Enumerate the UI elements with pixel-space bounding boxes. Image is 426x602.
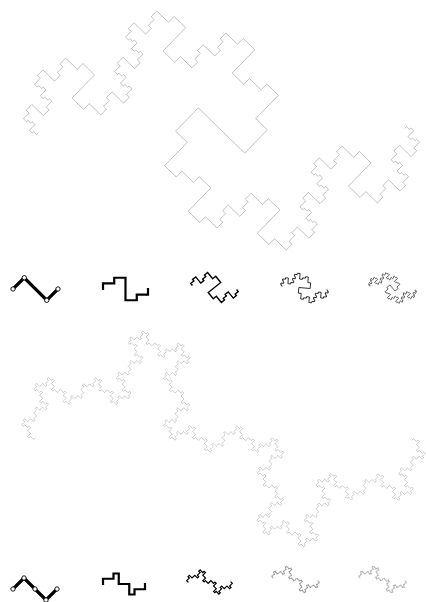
generator-node-marker — [22, 276, 26, 280]
generator-node-marker — [45, 298, 49, 302]
curve-b-iteration-4 — [272, 566, 320, 593]
curve-b-main-path — [22, 331, 425, 547]
curve-b-main-fractal — [22, 331, 425, 547]
panel-curve-b — [11, 331, 425, 602]
curve-a-main-path — [23, 11, 419, 250]
curve-b-iteration-1 — [11, 576, 59, 602]
curve-a-iteration-3-path — [191, 273, 239, 303]
curve-a-main-fractal — [23, 11, 419, 250]
panel-curve-a — [11, 11, 420, 304]
generator-node-marker — [55, 587, 59, 591]
curve-a-iteration-3 — [191, 273, 239, 303]
curve-a-iteration-1 — [11, 276, 60, 303]
generator-node-marker — [56, 287, 60, 291]
curve-a-iteration-5 — [368, 273, 416, 304]
generator-node-marker — [11, 587, 15, 591]
curve-b-iteration-row — [11, 566, 407, 602]
curve-b-iteration-5-path — [359, 566, 407, 593]
curve-a-iteration-row — [11, 273, 417, 304]
curve-b-iteration-2-path — [103, 574, 145, 595]
curve-a-iteration-2-path — [103, 278, 148, 301]
curve-a-iteration-4 — [281, 273, 329, 303]
curve-b-iteration-4-path — [272, 566, 320, 593]
generator-node-marker — [44, 598, 48, 602]
curve-b-iteration-3 — [187, 570, 233, 594]
curve-b-iteration-2 — [103, 574, 145, 595]
generator-node-marker — [11, 287, 15, 291]
fractal-figure — [0, 0, 426, 602]
curve-b-iteration-5 — [359, 566, 407, 593]
curve-a-iteration-2 — [103, 278, 148, 301]
curve-b-iteration-3-path — [187, 570, 233, 594]
fractal-canvas — [0, 0, 426, 602]
curve-a-iteration-5-path — [368, 273, 416, 304]
generator-node-marker — [22, 576, 26, 580]
generator-node-marker — [33, 587, 37, 591]
curve-a-iteration-1-path — [13, 278, 58, 301]
curve-a-iteration-4-path — [281, 273, 329, 303]
